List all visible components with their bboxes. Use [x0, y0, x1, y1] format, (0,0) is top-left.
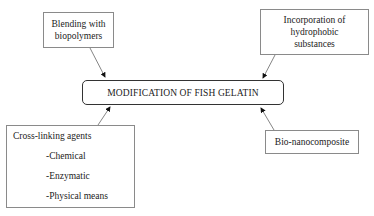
arrow-bionano-to-center: [261, 108, 274, 130]
node-text-line: substances: [294, 38, 335, 50]
cross-linking-item: -Physical means: [13, 190, 134, 202]
cross-linking-item: -Chemical: [13, 150, 134, 162]
node-text-line: Bio-nanocomposite: [275, 136, 349, 148]
arrow-crosslinking-to-center: [98, 107, 110, 125]
node-text-line: hydrophobic: [290, 26, 338, 38]
cross-linking-title: Cross-linking agents: [13, 130, 134, 142]
arrow-blending-to-center: [90, 48, 105, 77]
node-cross-linking-agents: Cross-linking agents -Chemical -Enzymati…: [6, 125, 135, 208]
node-text-line: biopolymers: [55, 30, 103, 42]
arrow-incorporation-to-center: [263, 55, 275, 78]
node-incorporation-hydrophobic: Incorporation of hydrophobic substances: [260, 9, 369, 55]
center-label: MODIFICATION OF FISH GELATIN: [107, 87, 258, 99]
cross-linking-item: -Enzymatic: [13, 170, 134, 182]
node-text-line: Incorporation of: [284, 14, 346, 26]
node-text-line: Blending with: [51, 18, 105, 30]
node-bio-nanocomposite: Bio-nanocomposite: [265, 130, 359, 154]
node-blending-with-biopolymers: Blending with biopolymers: [43, 12, 114, 48]
node-center-modification: MODIFICATION OF FISH GELATIN: [82, 80, 284, 105]
